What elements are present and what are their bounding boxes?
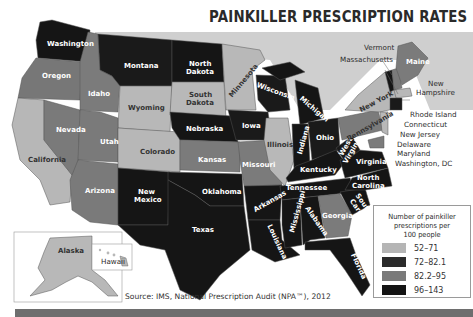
label-north-dakota-2: Dakota (186, 68, 214, 76)
label-north-carolina-2: Carolina (352, 182, 385, 190)
label-kansas: Kansas (198, 156, 226, 164)
state-utah (78, 110, 118, 162)
label-oregon: Oregon (42, 72, 71, 80)
callout-maryland: Maryland (397, 149, 430, 158)
label-maine: Maine (406, 58, 430, 66)
callout-vermont: Vermont (364, 43, 395, 52)
callout-new-hampshire-1: New (428, 79, 444, 88)
label-virginia: Virginia (356, 158, 387, 166)
legend-item: 82.2–95 (382, 271, 470, 281)
label-south-dakota-1: South (189, 91, 212, 99)
callout-connecticut: Connecticut (404, 120, 447, 129)
label-arizona: Arizona (85, 187, 115, 195)
state-massachusetts (394, 88, 412, 98)
label-illinois: Illinois (267, 141, 293, 149)
label-nebraska: Nebraska (186, 125, 224, 133)
label-oklahoma: Oklahoma (202, 188, 242, 196)
label-ohio: Ohio (316, 134, 334, 142)
legend-title-line-1: Number of painkiller (378, 212, 466, 221)
page-title: PAINKILLER PRESCRIPTION RATES (209, 8, 467, 26)
label-iowa: Iowa (242, 122, 261, 130)
legend-label: 82.2–95 (414, 272, 446, 281)
label-nevada: Nevada (56, 126, 86, 134)
state-maryland-delaware (368, 136, 384, 148)
label-wyoming: Wyoming (128, 104, 165, 112)
label-colorado: Colorado (140, 148, 175, 156)
callout-washington-dc: Washington, DC (395, 159, 452, 168)
legend-item: 96–143 (382, 285, 470, 295)
label-tennessee: Tennessee (286, 184, 327, 192)
label-texas: Texas (192, 226, 214, 234)
label-south-dakota-2: Dakota (186, 99, 214, 107)
legend-item: 72–82.1 (382, 257, 470, 267)
label-missouri: Missouri (242, 161, 275, 169)
legend-label: 52–71 (414, 244, 438, 253)
legend-item: 52–71 (382, 243, 470, 253)
label-north-dakota-1: North (189, 60, 211, 68)
label-new-mexico-1: New (138, 188, 156, 196)
label-utah: Utah (100, 138, 119, 146)
legend-label: 72–82.1 (414, 258, 446, 267)
legend-title: Number of painkiller prescriptions per 1… (378, 212, 466, 239)
label-washington: Washington (47, 40, 94, 48)
callout-rhode-island: Rhode Island (410, 110, 457, 119)
legend: Number of painkiller prescriptions per 1… (373, 205, 471, 298)
callout-delaware: Delaware (397, 140, 431, 149)
bottom-band (15, 309, 473, 317)
legend-swatch-light (382, 243, 406, 253)
label-new-mexico-2: Mexico (134, 196, 162, 204)
label-georgia: Georgia (322, 212, 353, 220)
callout-new-jersey: New Jersey (400, 130, 441, 139)
legend-swatch-mid (382, 271, 406, 281)
label-idaho: Idaho (88, 90, 110, 98)
label-montana: Montana (124, 62, 159, 70)
label-hawaii: Hawaii (101, 257, 125, 266)
state-connecticut (390, 98, 402, 110)
label-kentucky: Kentucky (300, 166, 337, 174)
label-north-carolina-1: North (357, 174, 379, 182)
label-california: California (28, 156, 66, 164)
legend-swatch-dark (382, 257, 406, 267)
legend-label: 96–143 (414, 286, 443, 295)
legend-title-line-3: 100 people (378, 230, 466, 239)
callout-massachusetts: Massachusetts (340, 55, 393, 64)
callout-new-hampshire-2: Hampshire (416, 88, 455, 97)
legend-swatch-darkest (382, 285, 406, 295)
source-note: Source: IMS, National Prescription Audit… (125, 292, 331, 301)
legend-title-line-2: prescriptions per (378, 221, 466, 230)
label-alaska: Alaska (58, 247, 84, 255)
